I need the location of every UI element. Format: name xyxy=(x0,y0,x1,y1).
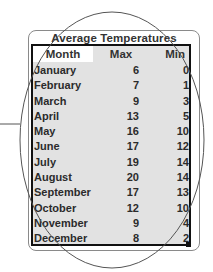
overlay-circle xyxy=(20,12,204,268)
overlay-drawing xyxy=(0,0,213,272)
